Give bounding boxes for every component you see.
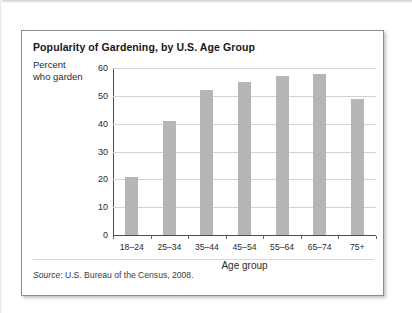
y-tick-label: 30 [98, 148, 108, 157]
page-canvas: Popularity of Gardening, by U.S. Age Gro… [0, 0, 412, 313]
x-tick-label: 45–54 [233, 242, 257, 252]
source-divider [33, 259, 374, 260]
scan-edge-top [0, 0, 412, 3]
x-tick-label: 18–24 [120, 242, 144, 252]
x-axis-tick [338, 236, 339, 239]
x-tick-label: 55–64 [270, 242, 294, 252]
x-axis-tick [301, 236, 302, 239]
source-text: U.S. Bureau of the Census, 2008. [65, 270, 194, 280]
x-axis-tick [151, 236, 152, 239]
chart-title: Popularity of Gardening, by U.S. Age Gro… [33, 41, 255, 53]
y-axis-caption: Percent who garden [33, 59, 83, 82]
x-axis-tick [113, 236, 114, 239]
x-axis-tick [263, 236, 264, 239]
y-tick-label: 10 [98, 203, 108, 212]
x-tick-label: 65–74 [308, 242, 332, 252]
figure-frame: Popularity of Gardening, by U.S. Age Gro… [21, 30, 384, 296]
plot-area: Age group 010203040506018–2425–3435–4445… [113, 68, 376, 235]
x-axis-tick [376, 236, 377, 239]
source-label: Source [33, 270, 60, 280]
y-tick-label: 20 [98, 175, 108, 184]
x-axis-tick [226, 236, 227, 239]
y-tick-label: 50 [98, 92, 108, 101]
bar [276, 76, 289, 235]
x-axis-tick [188, 236, 189, 239]
y-tick-label: 0 [103, 231, 108, 240]
x-tick-label: 25–34 [157, 242, 181, 252]
y-tick-label: 40 [98, 120, 108, 129]
bar [238, 82, 251, 235]
gridline [113, 68, 376, 69]
bar [351, 99, 364, 235]
source-note: Source: U.S. Bureau of the Census, 2008. [33, 270, 194, 280]
y-tick-label: 60 [98, 64, 108, 73]
x-tick-label: 35–44 [195, 242, 219, 252]
scan-edge-left [0, 0, 2, 313]
y-axis-caption-line-2: who garden [33, 71, 83, 83]
bar [163, 121, 176, 235]
bar [200, 90, 213, 235]
y-axis-caption-line-1: Percent [33, 59, 83, 71]
x-tick-label: 75+ [350, 242, 365, 252]
bar [125, 177, 138, 235]
bar [313, 74, 326, 235]
x-axis-line [113, 235, 376, 236]
